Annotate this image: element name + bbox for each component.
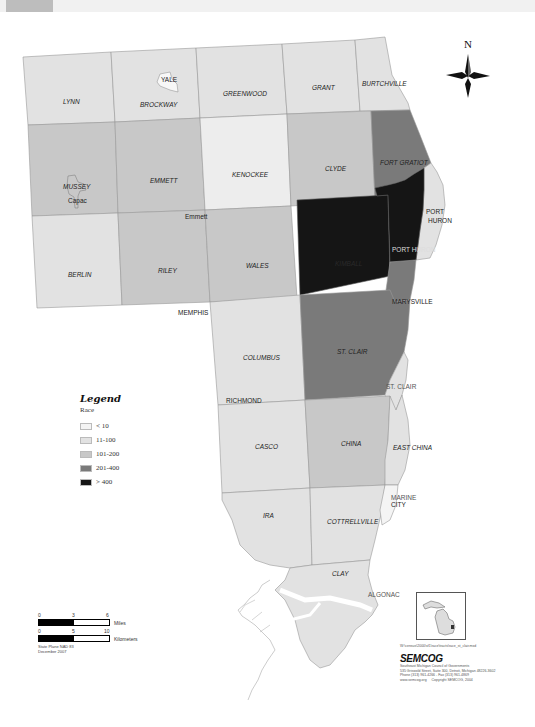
org-web: www.semcog.org	[400, 678, 427, 682]
semcog-logo: SEMCOG	[400, 653, 535, 664]
island-coastline	[238, 580, 275, 700]
label-china: CHINA	[341, 440, 361, 447]
legend-item: > 400	[80, 475, 170, 489]
label-marine-city-1: MARINE	[391, 494, 417, 501]
label-emmett-village: Emmett	[185, 213, 208, 220]
township-berlin	[32, 213, 122, 308]
credits-block: W:\census\2000\sf1\race\tracts\race_st_c…	[400, 644, 535, 682]
label-grant: GRANT	[312, 84, 336, 91]
legend-label: < 10	[96, 422, 109, 430]
label-algonac: ALGONAC	[368, 591, 400, 598]
legend-item: 201-400	[80, 461, 170, 475]
label-capac: Capac	[68, 197, 88, 205]
label-port-huron-city-2: HURON	[428, 217, 452, 224]
km-ticks: 0 5 10	[38, 628, 158, 635]
label-richmond: RICHMOND	[226, 397, 262, 404]
miles-label: Miles	[114, 620, 126, 626]
tick: 10	[104, 628, 110, 634]
tick: 0	[38, 612, 41, 618]
km-bar	[38, 635, 110, 642]
township-emmett	[115, 118, 205, 213]
file-path: W:\census\2000\sf1\race\tracts\race_st_c…	[400, 644, 535, 648]
label-clyde: CLYDE	[325, 165, 347, 172]
north-arrow-icon: N	[446, 38, 490, 98]
label-columbus: COLUMBUS	[243, 354, 281, 361]
legend-swatch	[80, 423, 92, 430]
legend: Legend Race < 10 11-100 101-200 201-400 …	[80, 393, 170, 489]
legend-label: 101-200	[96, 450, 119, 458]
tick: 0	[38, 628, 41, 634]
township-grant	[282, 40, 360, 114]
label-east-china: EAST CHINA	[393, 444, 432, 451]
label-port-huron-city-1: PORT	[426, 208, 444, 215]
legend-swatch	[80, 479, 92, 486]
tick: 5	[72, 628, 75, 634]
label-wales: WALES	[246, 262, 269, 269]
legend-label: > 400	[96, 478, 112, 486]
legend-label: 11-100	[96, 436, 116, 444]
township-ira	[222, 488, 312, 568]
township-lynn	[23, 52, 115, 125]
township-greenwood	[196, 44, 287, 118]
legend-swatch	[80, 465, 92, 472]
org-web-line: www.semcog.org Copyright SEMCOG, 2004	[400, 678, 535, 683]
scale-bar: 0 3 6 Miles 0 5 10 Kilometers State Plan…	[38, 612, 158, 654]
township-columbus	[210, 295, 305, 405]
label-kenockee: KENOCKEE	[232, 171, 269, 178]
label-brockway: BROCKWAY	[140, 101, 178, 108]
label-clay: CLAY	[332, 570, 349, 577]
label-berlin: BERLIN	[68, 271, 92, 278]
label-emmett: EMMETT	[150, 177, 178, 184]
svg-text:N: N	[464, 38, 472, 50]
township-cottrellville	[310, 485, 385, 565]
township-clay	[275, 560, 378, 668]
miles-bar	[38, 619, 110, 626]
label-yale: YALE	[161, 76, 178, 83]
label-casco: CASCO	[255, 443, 278, 450]
legend-item: 101-200	[80, 447, 170, 461]
label-st-clair-city: ST. CLAIR	[386, 383, 417, 390]
label-marysville: MARYSVILLE	[392, 298, 433, 305]
legend-swatch	[80, 451, 92, 458]
label-ira: IRA	[263, 512, 274, 519]
legend-subtitle: Race	[80, 406, 170, 414]
township-brockway	[111, 48, 200, 122]
label-memphis: MEMPHIS	[178, 309, 209, 316]
township-kenockee	[200, 114, 291, 210]
township-riley	[118, 210, 210, 305]
label-st-clair-twp: ST. CLAIR	[337, 348, 368, 355]
miles-ticks: 0 3 6	[38, 612, 158, 619]
label-port-huron-twp: PORT HURON	[392, 246, 436, 253]
km-label: Kilometers	[114, 636, 138, 642]
label-greenwood: GREENWOOD	[223, 90, 267, 97]
legend-label: 201-400	[96, 464, 119, 472]
label-mussey: MUSSEY	[63, 183, 91, 190]
legend-title: Legend	[80, 393, 170, 404]
township-wales	[205, 206, 297, 302]
label-marine-city-2: CITY	[391, 501, 406, 508]
michigan-inset-map	[416, 592, 466, 640]
township-kimball	[297, 195, 390, 295]
label-cottrellville: COTTRELLVILLE	[327, 518, 379, 525]
label-fort-gratiot: FORT GRATIOT	[380, 159, 429, 166]
township-clyde	[287, 111, 375, 206]
legend-item: < 10	[80, 419, 170, 433]
tick: 6	[106, 612, 109, 618]
label-lynn: LYNN	[63, 98, 80, 105]
tick: 3	[72, 612, 75, 618]
label-kimball: KIMBALL	[335, 260, 363, 267]
legend-swatch	[80, 437, 92, 444]
legend-item: 11-100	[80, 433, 170, 447]
copyright: Copyright SEMCOG, 2004	[432, 678, 473, 682]
label-riley: RILEY	[158, 267, 177, 274]
label-burtchville: BURTCHVILLE	[362, 80, 407, 87]
michigan-icon	[417, 593, 465, 639]
township-burtchville	[355, 37, 410, 111]
date-note: December 2007	[38, 649, 158, 654]
